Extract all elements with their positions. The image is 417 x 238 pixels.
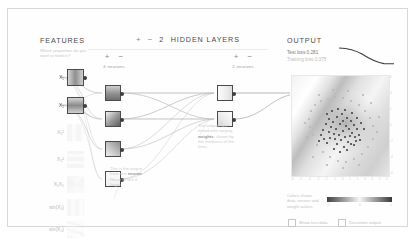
hidden-layers-header: + − 2 HIDDEN LAYERS — [136, 35, 240, 44]
y-tick: -6 — [390, 171, 393, 175]
scale-tick: 1 — [390, 203, 392, 207]
heatmap-y-axis: 6 4 2 0 -2 -4 -6 — [390, 75, 393, 175]
x-tick: 3 — [364, 177, 366, 181]
x-tick: 0 — [342, 177, 344, 181]
training-loss-value: Training loss 0.375 — [287, 57, 326, 62]
color-scale-ticks: -1 0 1 — [327, 203, 392, 207]
y-tick: 4 — [390, 91, 393, 95]
feature-label: sin(X₂) — [45, 226, 64, 232]
layer-1-controls: + − 4 neurons — [92, 53, 136, 69]
feature-thumbnail[interactable] — [67, 124, 84, 141]
annotation-text-pre: The outputs are mixed with varying — [198, 123, 232, 133]
checkbox-label: Show test data — [299, 220, 327, 225]
features-title: FEATURES — [40, 36, 85, 45]
layer-1-neuron-count: 4 neurons — [92, 64, 136, 69]
neuron-l1-3[interactable] — [105, 141, 121, 157]
feature-row-x1x2[interactable]: X₁X₂ — [51, 176, 97, 194]
annotation-emphasis: neuron — [128, 171, 142, 176]
x-tick: -5 — [299, 177, 302, 181]
annotation-emphasis: weights — [198, 134, 214, 139]
checkbox-label: Discretize output — [349, 220, 381, 225]
feature-thumbnail[interactable] — [67, 151, 84, 168]
x-tick: 1 — [349, 177, 351, 181]
feature-row-sinx1[interactable]: sin(X₁) — [51, 199, 97, 217]
neuron-output-node — [120, 148, 124, 152]
y-tick: -2 — [390, 139, 393, 143]
discretize-output-checkbox[interactable]: Discretize output — [338, 219, 381, 227]
loss-curve-chart — [338, 45, 395, 67]
hidden-layers-label: HIDDEN LAYERS — [171, 35, 240, 44]
feature-thumbnail[interactable] — [67, 221, 84, 235]
neuron-l1-1[interactable] — [105, 85, 121, 101]
feature-label: X₂ — [51, 102, 64, 108]
header-divider — [88, 49, 268, 50]
feature-output-node — [83, 104, 87, 108]
x-tick: 2 — [357, 177, 359, 181]
checkbox-box[interactable] — [288, 219, 296, 227]
scale-tick: 0 — [359, 203, 361, 207]
x-tick: 5 — [379, 177, 381, 181]
features-subtitle: Which properties do you want to feed in? — [40, 48, 92, 59]
layer-2-remove-neuron-button[interactable]: − — [248, 53, 253, 61]
heatmap-x-axis: -6 -5 -4 -3 -2 -1 0 1 2 3 4 5 6 — [291, 177, 388, 181]
neuron-output-node — [232, 92, 236, 96]
layer-1-remove-neuron-button[interactable]: − — [119, 53, 124, 61]
app-frame: FEATURES Which properties do you want to… — [7, 8, 408, 227]
hidden-layer-count: 2 — [159, 35, 163, 44]
checkbox-box[interactable] — [338, 219, 346, 227]
output-title: OUTPUT — [287, 36, 322, 45]
output-heatmap[interactable] — [291, 75, 390, 177]
scale-tick: -1 — [327, 203, 330, 207]
layer-2-neuron-count: 2 neurons — [221, 64, 265, 69]
y-tick: 0 — [390, 123, 393, 127]
x-tick: -4 — [308, 177, 311, 181]
layer-2-add-neuron-button[interactable]: + — [234, 53, 239, 61]
x-tick: 6 — [386, 177, 388, 181]
feature-row-x2sq[interactable]: X₂² — [51, 151, 97, 169]
x-tick: -1 — [333, 177, 336, 181]
test-loss-value: Test loss 0.281 — [287, 50, 318, 55]
feature-label: X₂² — [51, 156, 64, 162]
x-tick: 4 — [371, 177, 373, 181]
add-layer-button[interactable]: + — [136, 36, 141, 44]
remove-layer-button[interactable]: − — [148, 36, 153, 44]
neuron-annotation: This is the output from one neuron. Hove… — [110, 166, 148, 187]
layer-2-controls: + − 2 neurons — [221, 53, 265, 69]
feature-label: sin(X₁) — [45, 204, 64, 210]
neuron-l1-2[interactable] — [105, 111, 121, 127]
feature-row-x2[interactable]: X₂ — [51, 97, 97, 115]
feature-thumbnail[interactable] — [67, 97, 84, 114]
neuron-l2-1[interactable] — [217, 85, 233, 101]
feature-row-x1sq[interactable]: X₁² — [51, 124, 97, 142]
feature-thumbnail[interactable] — [67, 176, 84, 193]
neuron-output-node — [232, 118, 236, 122]
color-scale-bar — [327, 197, 392, 202]
feature-thumbnail[interactable] — [67, 69, 84, 86]
feature-output-node — [83, 76, 87, 80]
feature-row-sinx2[interactable]: sin(X₂) — [51, 221, 97, 235]
neuron-output-node — [120, 118, 124, 122]
x-tick: -2 — [325, 177, 328, 181]
feature-label: X₁X₂ — [51, 181, 64, 187]
feature-thumbnail[interactable] — [67, 199, 84, 216]
feature-label: X₁² — [51, 129, 64, 135]
x-tick: -3 — [316, 177, 319, 181]
feature-row-x1[interactable]: X₁ — [51, 69, 97, 87]
layer-1-add-neuron-button[interactable]: + — [105, 53, 110, 61]
x-tick: -6 — [291, 177, 294, 181]
y-tick: -4 — [390, 155, 393, 159]
legend-description: Colors shows data, neuron and weight val… — [287, 193, 321, 209]
y-tick: 6 — [390, 75, 393, 79]
feature-label: X₁ — [51, 74, 64, 80]
show-test-data-checkbox[interactable]: Show test data — [288, 219, 327, 227]
y-tick: 2 — [390, 107, 393, 111]
weights-annotation: The outputs are mixed with varying weigh… — [198, 123, 236, 149]
neuron-output-node — [120, 92, 124, 96]
